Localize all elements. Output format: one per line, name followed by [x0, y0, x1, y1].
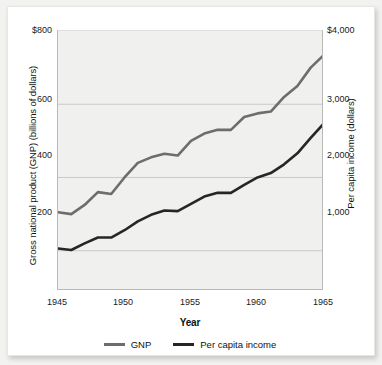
page-background: Gross national product (GNP) (billions o… [0, 0, 382, 365]
legend-swatch-gnp [104, 343, 125, 346]
y-tick-label-left-800: $800 [6, 25, 52, 35]
y-tick-label-left-600: 600 [6, 94, 52, 104]
y-tick-label-right-1000: 1,000 [327, 207, 373, 217]
x-tick-label-1960: 1960 [234, 297, 278, 307]
x-tick-label-1965: 1965 [301, 297, 345, 307]
y-tick-label-right-4000: $4,000 [327, 25, 373, 35]
chart-legend: GNP Per capita income [57, 336, 323, 352]
legend-item-gnp: GNP [104, 339, 152, 350]
legend-swatch-per-capita-income [173, 343, 194, 346]
gridlines [58, 104, 323, 250]
legend-label-per-capita-income: Per capita income [200, 339, 276, 350]
x-tick-label-1945: 1945 [35, 297, 79, 307]
y-tick-label-right-3000: 3,000 [327, 94, 373, 104]
y-axis-title-left: Gross national product (GNP) (billions o… [27, 46, 38, 286]
plot-svg [58, 31, 323, 290]
y-tick-label-right-2000: 2,000 [327, 150, 373, 160]
series-lines [58, 55, 323, 250]
series-line-gnp [58, 55, 323, 214]
x-tick-label-1950: 1950 [101, 297, 145, 307]
y-tick-label-left-200: 200 [6, 207, 52, 217]
chart-figure: Gross national product (GNP) (billions o… [0, 0, 382, 365]
x-axis-title: Year [56, 317, 324, 328]
plot-area [57, 30, 323, 290]
legend-item-per-capita-income: Per capita income [173, 339, 276, 350]
legend-label-gnp: GNP [131, 339, 152, 350]
y-tick-label-left-400: 400 [6, 150, 52, 160]
x-tick-label-1955: 1955 [168, 297, 212, 307]
